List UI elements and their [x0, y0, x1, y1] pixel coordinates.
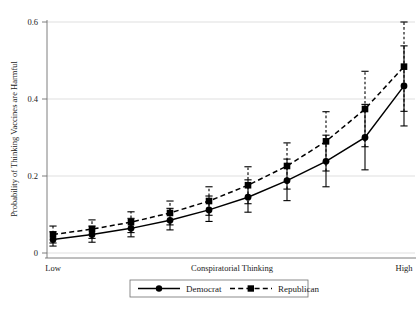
series-republican-errorbars [49, 22, 407, 243]
data-point-marker [89, 231, 96, 238]
axis-frame [45, 20, 416, 258]
data-point-marker [167, 210, 174, 217]
y-tick-label-0.6: 0.6 [27, 17, 38, 27]
x-tick-label-high: High [396, 263, 414, 273]
data-point-marker [206, 198, 213, 205]
series-line-republican [53, 67, 404, 235]
data-point-marker [167, 217, 174, 224]
legend-label-democrat: Democrat [186, 284, 222, 294]
y-tick-label-0.2: 0.2 [27, 171, 38, 181]
legend-marker-democrat-icon [156, 285, 162, 291]
data-point-marker [401, 63, 408, 70]
series-republican-markers [50, 63, 408, 237]
data-point-marker [128, 225, 135, 232]
legend-marker-republican-icon [248, 285, 254, 291]
y-axis-title: Probability of Thinking Vaccines are Har… [9, 61, 19, 217]
data-point-marker [362, 134, 369, 141]
chart-legend: Democrat Republican [130, 280, 319, 297]
series-democrat-markers [50, 83, 408, 243]
x-axis-title: Conspiratorial Thinking [191, 263, 274, 273]
chart-figure: 0.6 0.4 0.2 0 Probability of Thinking Va… [0, 0, 420, 309]
data-point-marker [284, 177, 291, 184]
data-point-marker [50, 236, 57, 243]
y-tick-label-0: 0 [34, 248, 38, 258]
data-point-marker [128, 219, 135, 226]
series-democrat-errorbars [49, 46, 407, 246]
data-point-marker [245, 194, 252, 201]
series-line-democrat [53, 86, 404, 240]
data-point-marker [362, 106, 369, 113]
data-point-marker [245, 182, 252, 189]
data-point-marker [323, 158, 330, 165]
chart-canvas: 0.6 0.4 0.2 0 Probability of Thinking Va… [0, 0, 420, 309]
data-point-marker [206, 206, 213, 213]
legend-label-republican: Republican [278, 284, 319, 294]
y-tick-label-0.4: 0.4 [27, 94, 38, 104]
y-axis-ticks [42, 22, 47, 253]
data-point-marker [323, 138, 330, 145]
gridlines [47, 22, 415, 253]
data-point-marker [401, 83, 408, 90]
data-point-marker [284, 163, 291, 170]
x-tick-label-low: Low [45, 263, 61, 273]
